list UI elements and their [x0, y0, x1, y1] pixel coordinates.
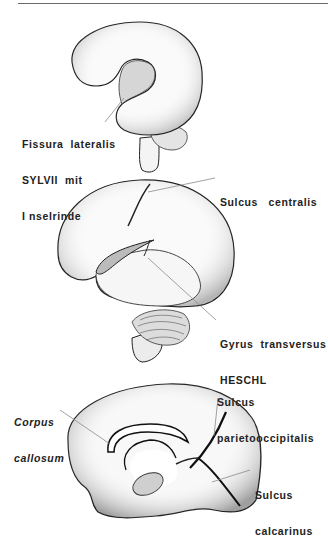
label-line: Fissura lateralis — [22, 138, 116, 150]
label-sulcus-parietooccipitalis: Sulcus parietooccipitalis — [217, 372, 314, 456]
label-line: callosum — [14, 452, 64, 464]
label-line: SYLVII mit — [22, 174, 116, 186]
label-line: parietooccipitalis — [217, 432, 314, 444]
label-line: Sulcus — [217, 396, 314, 408]
label-line: Gyrus transversus — [220, 338, 327, 350]
label-line: I nselrinde — [22, 210, 116, 222]
label-line: Corpus — [14, 416, 64, 428]
label-sulcus-calcarinus: Sulcus calcarinus — [255, 465, 313, 539]
label-sulcus-centralis: Sulcus centralis — [220, 172, 317, 220]
label-line: Sulcus — [255, 489, 313, 501]
label-corpus-callosum: Corpus callosum — [14, 392, 64, 476]
label-line: Sulcus centralis — [220, 196, 317, 208]
label-line: calcarinus — [255, 525, 313, 537]
label-fissura-lateralis: Fissura lateralis SYLVII mit I nselrinde — [22, 114, 116, 234]
